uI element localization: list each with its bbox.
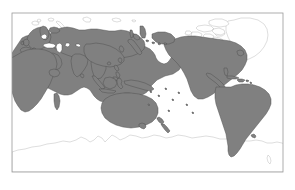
- borneo-landmass: [103, 77, 117, 89]
- world-map-figure: [0, 0, 295, 190]
- hainan-landmass: [107, 62, 111, 65]
- world-map-svg: [0, 0, 295, 190]
